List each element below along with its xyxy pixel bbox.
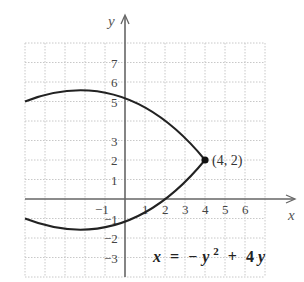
equation-plus: + <box>228 248 237 265</box>
x-tick-label: 6 <box>242 202 249 217</box>
y-axis-label: y <box>106 13 115 29</box>
equation-lhs: x <box>152 248 161 265</box>
x-axis-label: x <box>287 207 295 223</box>
x-tick-labels: −1 1 2 3 4 5 6 <box>95 202 249 217</box>
y-tick-label: −3 <box>104 251 118 266</box>
y-tick-label: 7 <box>111 56 118 71</box>
equation-label: x = − y 2 + 4 y <box>152 241 266 266</box>
vertex-point <box>201 156 208 163</box>
x-tick-label: 3 <box>182 202 189 217</box>
equation-var: y <box>200 248 210 266</box>
y-tick-label: 3 <box>111 134 118 149</box>
equation-minus: − <box>188 248 197 265</box>
x-tick-label: 2 <box>162 202 169 217</box>
y-tick-label: 5 <box>111 95 118 110</box>
y-tick-label: 1 <box>111 173 118 188</box>
vertex-label: (4, 2) <box>212 153 243 169</box>
equation-equals: = <box>170 248 179 265</box>
parabola-chart: y x −1 1 2 3 4 5 6 7 6 5 3 2 1 −1 −2 −3 … <box>0 0 304 282</box>
y-tick-label: −2 <box>104 231 118 246</box>
equation-coef: 4 <box>246 248 254 265</box>
y-tick-labels: 7 6 5 3 2 1 −1 −2 −3 <box>104 56 118 266</box>
x-tick-label: 1 <box>142 202 149 217</box>
x-tick-label: 5 <box>222 202 229 217</box>
equation-exponent: 2 <box>213 245 219 257</box>
x-tick-label: 4 <box>202 202 209 217</box>
equation-var2: y <box>256 248 266 266</box>
y-tick-label: 6 <box>111 75 118 90</box>
y-tick-label: 2 <box>111 153 118 168</box>
